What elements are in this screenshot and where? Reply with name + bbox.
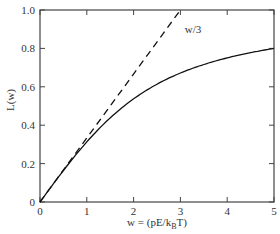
x-tick-label: 0 xyxy=(37,205,43,217)
x-tick-label: 1 xyxy=(84,205,90,217)
annotation-w-over-3: w/3 xyxy=(185,23,202,35)
y-tick-label: 0.4 xyxy=(21,119,35,131)
y-tick-label: 1.0 xyxy=(21,4,35,16)
y-tick-label: 0.8 xyxy=(21,42,35,54)
x-tick-label: 5 xyxy=(271,205,277,217)
x-axis-label: w = (pE/kBT) xyxy=(127,216,187,231)
y-tick-label: 0.2 xyxy=(21,158,35,170)
y-tick-label: 0 xyxy=(30,196,36,208)
y-axis-label: L(w) xyxy=(4,89,17,111)
plot-area: 01234500.20.40.60.81.0w/3w = (pE/kBT)L(w… xyxy=(4,4,277,231)
chart: 01234500.20.40.60.81.0w/3w = (pE/kBT)L(w… xyxy=(0,0,280,234)
plot-frame xyxy=(40,10,274,202)
langevin-curve xyxy=(40,48,274,202)
y-tick-label: 0.6 xyxy=(21,81,35,93)
x-tick-label: 4 xyxy=(224,205,230,217)
